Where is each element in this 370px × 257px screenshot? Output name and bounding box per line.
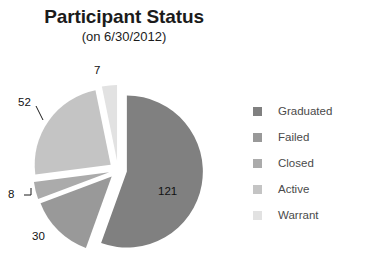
legend-item-closed[interactable]: Closed — [253, 150, 370, 176]
legend-swatch-icon — [253, 185, 262, 194]
pie-slice-active[interactable] — [35, 90, 111, 174]
legend-item-label: Closed — [278, 157, 314, 169]
legend-swatch-icon — [253, 159, 262, 168]
title-block: Participant Status (on 6/30/2012) — [0, 6, 248, 45]
legend: GraduatedFailedClosedActiveWarrant — [253, 98, 370, 228]
legend-item-label: Warrant — [278, 209, 318, 221]
pie-svg — [0, 52, 248, 257]
slice-value-label-active: 52 — [18, 96, 31, 108]
legend-item-warrant[interactable]: Warrant — [253, 202, 370, 228]
page-title: Participant Status — [0, 6, 248, 28]
slice-value-label-closed: 8 — [8, 188, 14, 200]
legend-item-graduated[interactable]: Graduated — [253, 98, 370, 124]
legend-swatch-icon — [253, 133, 262, 142]
legend-item-label: Failed — [278, 131, 309, 143]
plot-area: 121308527 — [0, 52, 248, 257]
legend-item-failed[interactable]: Failed — [253, 124, 370, 150]
pie-chart-figure: Participant Status (on 6/30/2012) 121308… — [0, 0, 370, 257]
legend-item-label: Graduated — [278, 105, 332, 117]
slice-value-label-warrant: 7 — [94, 64, 100, 76]
legend-swatch-icon — [253, 211, 262, 220]
legend-item-label: Active — [278, 183, 309, 195]
slice-value-label-graduated: 121 — [158, 185, 177, 197]
slice-value-label-failed: 30 — [32, 230, 45, 242]
legend-item-active[interactable]: Active — [253, 176, 370, 202]
legend-swatch-icon — [253, 107, 262, 116]
chart-subtitle: (on 6/30/2012) — [0, 29, 248, 45]
leader-line-active — [36, 106, 43, 120]
